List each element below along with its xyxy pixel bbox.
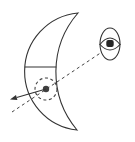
diagram-canvas <box>0 0 135 142</box>
crescent-outline <box>25 13 78 130</box>
crescent-eye-diagram <box>0 0 135 142</box>
crescent-group <box>25 13 78 130</box>
arrow-head <box>10 95 17 100</box>
eye-pupil <box>106 40 113 47</box>
eye-icon <box>100 28 120 60</box>
